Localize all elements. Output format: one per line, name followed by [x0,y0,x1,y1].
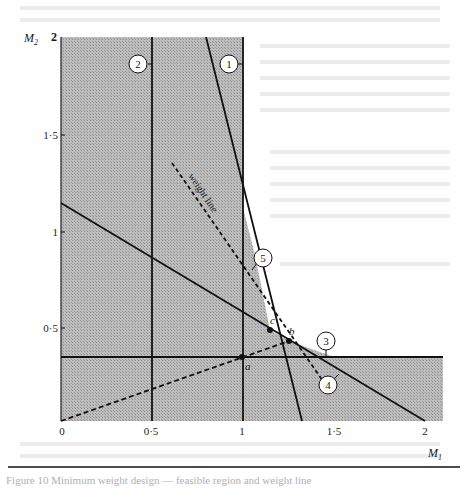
point-b-marker [286,338,292,344]
svg-text:3: 3 [323,335,329,347]
x-tick-1: 1 [239,425,245,437]
svg-text:4: 4 [325,379,331,391]
point-c-marker [267,327,273,333]
point-b-label: b [289,325,295,337]
point-a-label: a [245,360,251,372]
point-c-label: c [270,314,275,326]
x-tick-0-5: 0·5 [144,425,159,437]
x-axis-label: M1 [427,446,442,462]
y-tick-2: 2 [51,30,57,44]
y-axis-label: M2 [23,31,38,47]
svg-text:1: 1 [226,58,232,70]
x-tick-0: 0 [59,425,65,437]
figure-caption: Figure 10 Minimum weight design — feasib… [6,474,312,486]
y-tick-1: 1 [53,226,59,238]
svg-text:5: 5 [260,252,266,264]
x-axis-ticks: 0 0·5 1 1·5 2 [59,425,428,437]
x-tick-1-5: 1·5 [327,425,342,437]
chart-figure: weight line a b c 2 1 5 3 4 2 1·5 1 0·5 [0,0,467,489]
y-tick-1-5: 1·5 [43,129,58,141]
y-tick-0-5: 0·5 [43,322,58,334]
svg-text:2: 2 [135,58,141,70]
x-tick-2: 2 [422,425,428,437]
